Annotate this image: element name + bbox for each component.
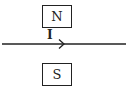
south-pole-label: S bbox=[53, 67, 62, 82]
current-label: I bbox=[47, 28, 53, 42]
south-pole-box: S bbox=[42, 63, 72, 86]
